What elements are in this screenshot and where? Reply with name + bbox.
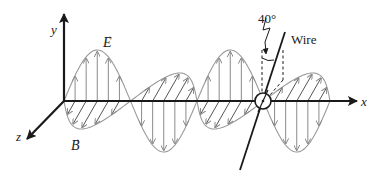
z-axis [27,101,64,139]
magnetic-field-label: → B [71,139,80,153]
z-axis-label: z [16,130,21,143]
vector-arrow-icon: → [71,134,80,144]
angle-arc [262,58,274,61]
vector-arrow-icon: → [103,31,112,41]
angle-label: 40° [258,12,276,25]
x-axis-label: x [361,95,367,108]
em-wave-diagram: y x z → E → B 40° Wire [0,0,375,178]
y-axis-label: y [51,23,57,36]
wire-label: Wire [291,33,316,46]
electric-field-label: → E [103,36,112,50]
